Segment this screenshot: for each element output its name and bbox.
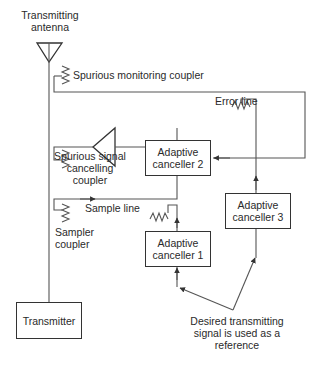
resistor-icon xyxy=(62,204,69,222)
resistor-icon xyxy=(62,66,69,84)
reference-note: Desired transmitting signal is used as a… xyxy=(182,315,292,351)
transmitter-block: Transmitter xyxy=(16,302,82,339)
canceller-3-line2: canceller 3 xyxy=(233,211,284,223)
antenna-label: Transmitting antenna xyxy=(18,9,82,33)
spurious-monitoring-coupler-label: Spurious monitoring coupler xyxy=(73,69,204,81)
resistor-icon xyxy=(150,213,168,221)
reference-note-line2: signal is used as a xyxy=(182,327,292,339)
spurious-cancelling-line3: coupler xyxy=(50,174,130,186)
canceller-1-line2: canceller 1 xyxy=(153,249,204,261)
antenna-label-line2: antenna xyxy=(18,21,82,33)
error-line-label: Error line xyxy=(215,95,258,107)
adaptive-canceller-2: Adaptive canceller 2 xyxy=(145,140,211,176)
antenna-label-line1: Transmitting xyxy=(18,9,82,21)
sampler-line1: Sampler xyxy=(55,226,94,238)
spurious-cancelling-line2: cancelling xyxy=(50,162,130,174)
transmitter-label: Transmitter xyxy=(23,315,76,327)
reference-note-line3: reference xyxy=(182,339,292,351)
spurious-cancelling-coupler-label: Spurious signal cancelling coupler xyxy=(50,150,130,186)
adaptive-canceller-3: Adaptive canceller 3 xyxy=(225,193,291,229)
sample-line-label: Sample line xyxy=(85,202,140,214)
canceller-2-line2: canceller 2 xyxy=(153,158,204,170)
canceller-1-line1: Adaptive xyxy=(153,237,204,249)
sampler-line2: coupler xyxy=(55,238,94,250)
adaptive-canceller-1: Adaptive canceller 1 xyxy=(145,231,211,267)
sampler-coupler-label: Sampler coupler xyxy=(55,226,94,250)
reference-note-line1: Desired transmitting xyxy=(182,315,292,327)
canceller-2-line1: Adaptive xyxy=(153,146,204,158)
spurious-cancelling-line1: Spurious signal xyxy=(50,150,130,162)
canceller-3-line1: Adaptive xyxy=(233,199,284,211)
